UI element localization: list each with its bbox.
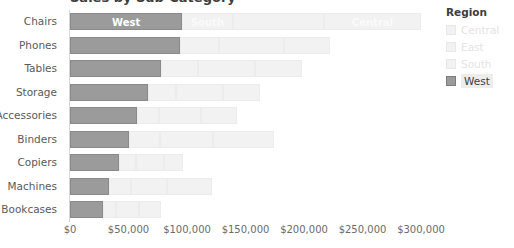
legend-item-label: East	[461, 41, 484, 53]
bar-segment-east[interactable]	[233, 13, 324, 30]
bar-segment-east[interactable]	[159, 107, 201, 124]
legend-swatch-icon	[446, 76, 456, 86]
bar-segment-west[interactable]	[70, 37, 180, 54]
bar-row: Copiers	[0, 151, 430, 175]
bar-segment-label: West	[71, 14, 181, 30]
sales-by-subcategory-chart: Sales by Sub-Category ChairsWestSouthCen…	[0, 0, 514, 248]
bar-segment-east[interactable]	[160, 131, 213, 148]
category-label-bookcases: Bookcases	[0, 198, 64, 222]
bar-segment-south[interactable]	[119, 154, 135, 171]
bar-segment-east[interactable]	[198, 60, 255, 77]
category-label-storage: Storage	[0, 81, 64, 105]
bar-row: Tables	[0, 57, 430, 81]
stacked-bar	[70, 84, 260, 101]
category-label-machines: Machines	[0, 175, 64, 199]
bar-segment-central[interactable]: Central	[324, 13, 421, 30]
stacked-bar	[70, 201, 161, 218]
bar-segment-west[interactable]	[70, 107, 137, 124]
legend-item-south[interactable]: South	[446, 56, 512, 72]
bar-segment-south[interactable]	[180, 37, 219, 54]
bar-row: Machines	[0, 175, 430, 199]
bar-segment-west[interactable]	[70, 84, 148, 101]
bar-segment-south[interactable]	[137, 107, 159, 124]
bar-segment-central[interactable]	[164, 154, 184, 171]
x-axis-tick: $300,000	[376, 224, 466, 235]
category-label-phones: Phones	[0, 34, 64, 58]
category-label-chairs: Chairs	[0, 10, 64, 34]
bar-segment-west[interactable]	[70, 60, 161, 77]
stacked-bar	[70, 107, 237, 124]
x-axis: $0$50,000$100,000$150,000$200,000$250,00…	[0, 224, 430, 246]
bar-segment-south[interactable]	[109, 178, 131, 195]
bar-row: Storage	[0, 81, 430, 105]
bar-segment-west[interactable]	[70, 131, 129, 148]
bar-row: Accessories	[0, 104, 430, 128]
legend-item-label: West	[461, 74, 493, 88]
category-label-binders: Binders	[0, 128, 64, 152]
stacked-bar	[70, 131, 274, 148]
legend-item-west[interactable]: West	[446, 73, 512, 89]
bar-segment-central[interactable]	[139, 201, 161, 218]
category-label-accessories: Accessories	[0, 104, 64, 128]
category-label-tables: Tables	[0, 57, 64, 81]
legend-swatch-icon	[446, 42, 456, 52]
legend-item-east[interactable]: East	[446, 39, 512, 55]
bar-segment-south[interactable]	[161, 60, 197, 77]
bar-segment-west[interactable]	[70, 178, 109, 195]
legend-swatch-icon	[446, 25, 456, 35]
bar-segment-west[interactable]	[70, 201, 103, 218]
bar-row: Binders	[0, 128, 430, 152]
bar-segment-central[interactable]	[223, 84, 259, 101]
stacked-bar: WestSouthCentral	[70, 13, 421, 30]
bar-segment-central[interactable]	[255, 60, 302, 77]
legend-swatch-icon	[446, 59, 456, 69]
chart-title: Sales by Sub-Category	[70, 0, 300, 5]
bar-segment-label: South	[183, 14, 231, 30]
stacked-bar	[70, 178, 212, 195]
category-label-copiers: Copiers	[0, 151, 64, 175]
bar-segment-south[interactable]: South	[182, 13, 232, 30]
stacked-bar	[70, 37, 330, 54]
bar-segment-east[interactable]	[219, 37, 285, 54]
bar-segment-south[interactable]	[103, 201, 116, 218]
bar-segment-south[interactable]	[129, 131, 161, 148]
bar-segment-south[interactable]	[148, 84, 176, 101]
bar-segment-central[interactable]	[201, 107, 237, 124]
bar-row: Bookcases	[0, 198, 430, 222]
legend-title: Region	[446, 6, 512, 18]
bar-segment-central[interactable]	[213, 131, 274, 148]
stacked-bar	[70, 154, 183, 171]
bar-segment-east[interactable]	[136, 154, 164, 171]
legend-item-central[interactable]: Central	[446, 22, 512, 38]
bar-segment-east[interactable]	[176, 84, 223, 101]
bar-segment-label: Central	[325, 14, 420, 30]
legend: Region CentralEastSouthWest	[446, 6, 512, 90]
plot-area: ChairsWestSouthCentralPhonesTablesStorag…	[0, 10, 430, 222]
bar-segment-central[interactable]	[284, 37, 330, 54]
bar-row: Phones	[0, 34, 430, 58]
bar-row: ChairsWestSouthCentral	[0, 10, 430, 34]
bar-segment-east[interactable]	[116, 201, 139, 218]
legend-item-label: Central	[461, 24, 499, 36]
bar-segment-central[interactable]	[167, 178, 211, 195]
bar-segment-west[interactable]: West	[70, 13, 182, 30]
bar-segment-east[interactable]	[131, 178, 167, 195]
legend-item-label: South	[461, 58, 492, 70]
bar-segment-west[interactable]	[70, 154, 119, 171]
stacked-bar	[70, 60, 302, 77]
